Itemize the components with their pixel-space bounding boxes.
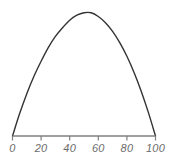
x-tick-label-0: 0 [9, 143, 15, 154]
x-tick-label-80: 80 [121, 143, 134, 154]
chart-plot-area [0, 0, 170, 160]
x-tick-label-40: 40 [63, 143, 76, 154]
x-tick-label-60: 60 [92, 143, 105, 154]
chart-container: 0 20 40 60 80 100 [0, 0, 170, 160]
x-tick-label-100: 100 [146, 143, 165, 154]
x-tick-label-20: 20 [35, 143, 48, 154]
curve-line [13, 12, 156, 136]
